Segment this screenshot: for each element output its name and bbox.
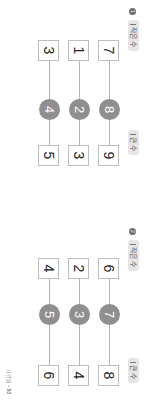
small-number-box: 1 [68, 40, 89, 61]
label-bar-icon [130, 362, 136, 363]
problem-1: 1 작은 수 큰 수 7 8 9 1 2 3 3 4 5 [0, 0, 155, 200]
large-number-box: 3 [68, 145, 89, 166]
number-row: 1 2 3 [69, 0, 89, 200]
problem-number-badge: 2 [129, 228, 136, 235]
middle-number-circle: 5 [39, 304, 60, 325]
middle-number-circle: 4 [39, 99, 60, 120]
small-number-label-text: 작은 수 [130, 247, 137, 267]
label-bar-icon [130, 24, 136, 25]
small-number-box: 7 [98, 40, 119, 61]
page-footer: 시간원 • 53 [6, 369, 13, 394]
small-number-label: 작은 수 [128, 240, 139, 271]
large-number-box: 5 [38, 145, 59, 166]
large-number-box: 8 [98, 365, 119, 386]
number-row: 2 3 4 [69, 220, 89, 400]
large-number-label: 큰 수 [128, 358, 139, 383]
number-row: 4 5 6 [39, 220, 59, 400]
large-number-box: 6 [38, 365, 59, 386]
large-number-label-text: 큰 수 [130, 137, 137, 151]
small-number-box: 3 [38, 40, 59, 61]
middle-number-circle: 7 [99, 304, 120, 325]
page-number: 53 [6, 388, 12, 394]
small-number-box: 2 [68, 258, 89, 279]
small-number-box: 6 [98, 258, 119, 279]
middle-number-circle: 8 [99, 99, 120, 120]
number-row: 3 4 5 [39, 0, 59, 200]
large-number-box: 4 [68, 365, 89, 386]
small-number-label-text: 작은 수 [130, 27, 137, 47]
small-number-box: 4 [38, 258, 59, 279]
number-row: 7 8 9 [99, 0, 119, 200]
small-number-label: 작은 수 [128, 20, 139, 51]
large-number-label: 큰 수 [128, 130, 139, 155]
worksheet-page: 1 작은 수 큰 수 7 8 9 1 2 3 3 4 5 2 작은 수 큰 수 … [0, 0, 155, 400]
label-bar-icon [130, 134, 136, 135]
label-bar-icon [130, 244, 136, 245]
section-name: 시간원 [6, 369, 12, 384]
number-row: 6 7 8 [99, 220, 119, 400]
large-number-box: 9 [98, 145, 119, 166]
problem-number-badge: 1 [129, 8, 136, 15]
footer-separator: • [6, 385, 12, 387]
problem-2: 2 작은 수 큰 수 6 7 8 2 3 4 4 5 6 [0, 220, 155, 400]
middle-number-circle: 3 [69, 304, 90, 325]
middle-number-circle: 2 [69, 99, 90, 120]
large-number-label-text: 큰 수 [130, 365, 137, 379]
